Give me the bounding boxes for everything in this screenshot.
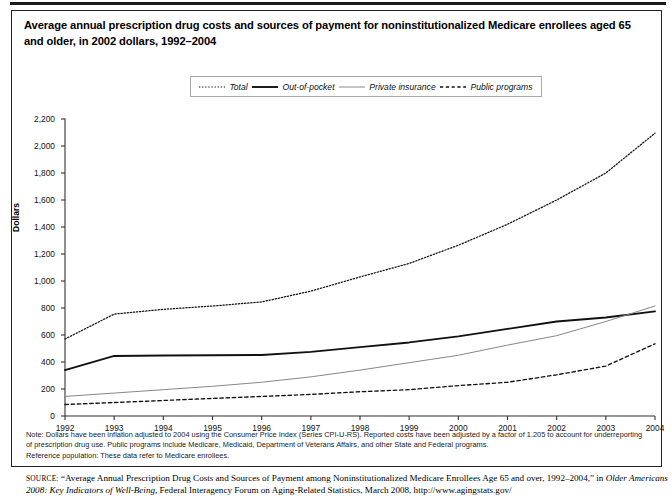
source-text-suffix: Federal Interagency Forum on Aging-Relat…	[157, 485, 511, 495]
figure-note-line-1: Note: Dollars have been inflation adjust…	[26, 430, 650, 451]
figure-note-line-2: Reference population: These data refer t…	[26, 451, 650, 461]
chart-plot	[0, 0, 672, 502]
series-line	[65, 133, 655, 339]
source-text: “Average Annual Prescription Drug Costs …	[61, 473, 594, 483]
source-label: SOURCE:	[26, 474, 59, 483]
figure-source: SOURCE: “Average Annual Prescription Dru…	[26, 473, 672, 496]
series-line	[65, 344, 655, 405]
figure-notes: Note: Dollars have been inflation adjust…	[26, 430, 650, 461]
series-line	[65, 311, 655, 370]
series-line	[65, 306, 655, 396]
source-text-prefix: in	[596, 473, 605, 483]
figure-container: Average annual prescription drug costs a…	[0, 0, 672, 502]
